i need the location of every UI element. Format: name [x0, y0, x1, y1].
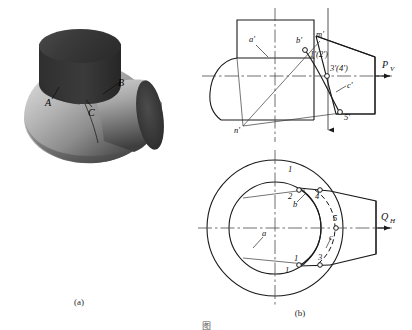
leader-a-prime — [256, 45, 268, 57]
label-point-1-mid: 1 — [294, 253, 298, 263]
label-point-5-top: 5 — [333, 213, 337, 223]
label-qh: Q — [381, 211, 389, 222]
front-dome-arc — [210, 58, 237, 120]
marker-34-prime — [325, 74, 330, 79]
label-m-prime: m' — [316, 29, 324, 39]
pictorial-view-group: A B C — [24, 29, 168, 163]
marker-2-top — [297, 188, 302, 193]
figure-container: A B C (a) — [0, 0, 412, 330]
leader-b-top — [297, 194, 305, 202]
marker-5-prime — [338, 110, 343, 115]
caption-a: (a) — [74, 297, 84, 307]
label-a-prime: a' — [249, 34, 255, 44]
label-qh-subscript: H — [389, 217, 396, 225]
label-b-prime: b' — [296, 35, 302, 45]
label-c-prime: c' — [347, 80, 353, 90]
pv-label-group: P V — [381, 59, 395, 73]
top-view-labels: a b c 1 2 4 5 3 1 1 — [262, 164, 337, 275]
label-point-12-prime: 1'(2') — [310, 49, 328, 59]
label-point-5-prime: 5' — [344, 112, 350, 122]
top-view-group — [198, 150, 392, 306]
label-point-34-prime: 3'(4') — [329, 63, 348, 73]
caption-b: (b) — [295, 308, 306, 318]
qh-label-group: Q H — [381, 211, 396, 225]
label-point-3: 3 — [317, 252, 322, 262]
label-c-top: c — [329, 232, 333, 242]
pictorial-label-C: C — [88, 107, 95, 118]
marker-3-top — [318, 263, 323, 268]
marker-12-prime — [303, 48, 308, 53]
label-n-prime: n' — [234, 125, 240, 135]
label-point-1-lower: 1 — [285, 265, 289, 275]
pictorial-label-A: A — [44, 97, 52, 108]
label-pv: P — [381, 59, 388, 70]
figure-bottom-caption: 图 — [202, 321, 211, 330]
label-point-1-upper: 1 — [288, 164, 292, 174]
pictorial-label-B: B — [118, 77, 124, 88]
label-a-top: a — [262, 228, 266, 238]
chord-upper — [243, 190, 305, 198]
front-view-group — [202, 8, 392, 142]
line-n-to-base — [237, 58, 243, 126]
label-pv-subscript: V — [390, 65, 395, 73]
marker-1-top — [297, 263, 302, 268]
leader-c-prime — [336, 86, 346, 92]
leader-a-top — [253, 237, 263, 248]
top-cylinder-top-face — [39, 29, 121, 63]
label-b-top: b — [293, 199, 297, 209]
line-n-to-m — [243, 41, 320, 126]
technical-drawing-svg: A B C (a) — [0, 0, 412, 330]
top-arm-join-lower — [299, 265, 330, 266]
marker-5-top — [334, 226, 339, 231]
